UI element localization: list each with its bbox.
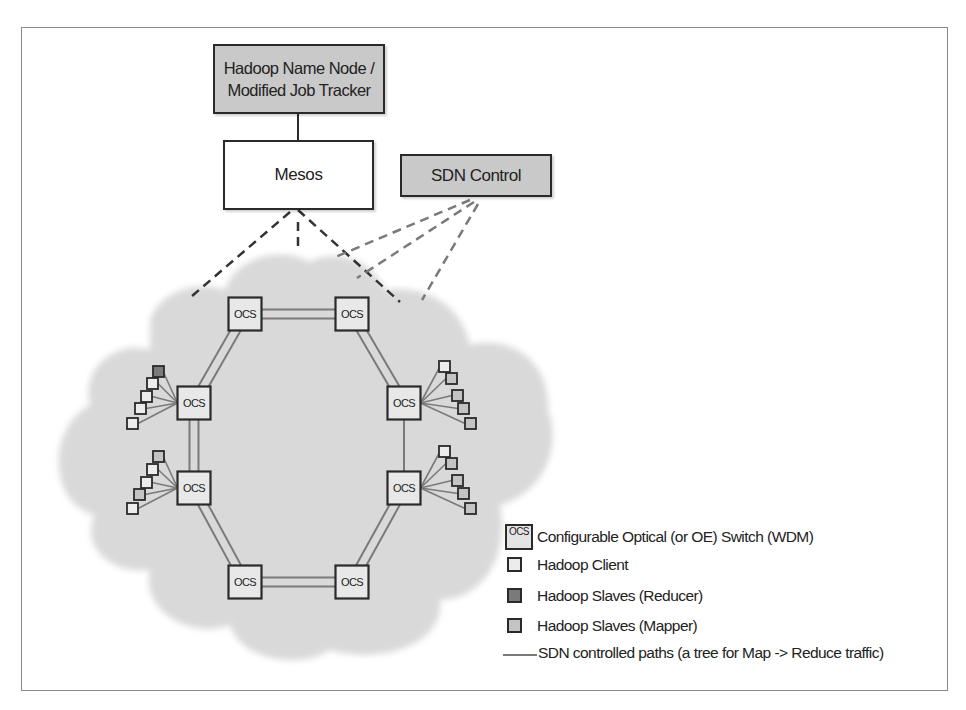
hadoop-mapper-node	[458, 488, 469, 499]
hadoop-client-node	[135, 403, 146, 414]
mesos-box: Mesos	[223, 140, 374, 210]
ocs-mid-left-upper: OCS	[178, 387, 211, 420]
sdn-control-box: SDN Control	[400, 154, 552, 197]
legend-label-client: Hadoop Client	[537, 556, 628, 574]
hadoop-mapper-node	[465, 503, 476, 514]
ocs-mid-right-lower: OCS	[388, 472, 421, 505]
hadoop-name-node-box: Hadoop Name Node / Modified Job Tracker	[213, 44, 385, 114]
legend-label-mapper: Hadoop Slaves (Mapper)	[537, 617, 697, 635]
ocs-switch-label: OCS	[234, 576, 256, 588]
namenode-label-line2: Modified Job Tracker	[224, 79, 375, 101]
hadoop-client-node	[141, 477, 152, 488]
hadoop-mapper-node	[452, 475, 463, 486]
hadoop-mapper-node	[134, 489, 145, 500]
hadoop-client-node	[141, 391, 152, 402]
network-cloud	[59, 255, 553, 661]
cloud-shape	[59, 255, 553, 661]
hadoop-client-node	[439, 361, 450, 372]
hadoop-client-node	[439, 446, 450, 457]
legend-label-ocs: Configurable Optical (or OE) Switch (WDM…	[537, 528, 813, 546]
hadoop-mapper-node	[446, 458, 457, 469]
legend-item-mapper: Hadoop Slaves (Mapper)	[503, 617, 803, 637]
ocs-switch-label: OCS	[183, 397, 205, 409]
ocs-mid-right-upper: OCS	[388, 387, 421, 420]
hadoop-mapper-node	[153, 451, 164, 462]
sdn-path-line-icon	[503, 654, 537, 656]
legend-item-reducer: Hadoop Slaves (Reducer)	[503, 587, 803, 607]
hadoop-mapper-node	[446, 373, 457, 384]
hadoop-client-square-icon	[507, 557, 522, 572]
namenode-label-line1: Hadoop Name Node /	[224, 57, 375, 79]
ocs-switch-label: OCS	[341, 576, 363, 588]
ocs-switch-icon: OCS	[505, 524, 533, 550]
ocs-switch-label: OCS	[234, 308, 256, 320]
ocs-switch-label: OCS	[183, 482, 205, 494]
hadoop-mapper-node	[452, 390, 463, 401]
legend-item-ocs: OCS Configurable Optical (or OE) Switch …	[503, 520, 923, 552]
hadoop-mapper-node	[458, 403, 469, 414]
network-diagram: OCSOCSOCSOCSOCSOCSOCSOCS	[0, 0, 966, 710]
mapper-square-icon	[507, 618, 522, 633]
ocs-mid-left-lower: OCS	[178, 472, 211, 505]
ocs-bottom-left: OCS	[229, 566, 262, 599]
reducer-square-icon	[507, 588, 522, 603]
sdn-link-2	[357, 202, 474, 278]
hadoop-client-node	[147, 464, 158, 475]
ocs-switch-label: OCS	[341, 308, 363, 320]
hadoop-mapper-node	[465, 418, 476, 429]
legend-label-reducer: Hadoop Slaves (Reducer)	[537, 587, 703, 605]
sdn-link-3	[422, 204, 478, 300]
legend-label-path: SDN controlled paths (a tree for Map -> …	[538, 644, 884, 662]
legend-item-client: Hadoop Client	[503, 556, 803, 576]
mesos-label: Mesos	[274, 165, 322, 185]
ocs-switch-label: OCS	[393, 482, 415, 494]
legend-item-path: SDN controlled paths (a tree for Map -> …	[503, 644, 943, 666]
ocs-switch-label: OCS	[393, 397, 415, 409]
hadoop-reducer-node	[153, 366, 164, 377]
ocs-top-right: OCS	[336, 298, 369, 331]
ocs-top-left: OCS	[229, 298, 262, 331]
hadoop-client-node	[127, 503, 138, 514]
hadoop-client-node	[147, 378, 158, 389]
ocs-icon-label: OCS	[509, 526, 529, 538]
hadoop-client-node	[127, 418, 138, 429]
sdn-control-label: SDN Control	[431, 166, 521, 186]
ocs-bottom-right: OCS	[336, 566, 369, 599]
